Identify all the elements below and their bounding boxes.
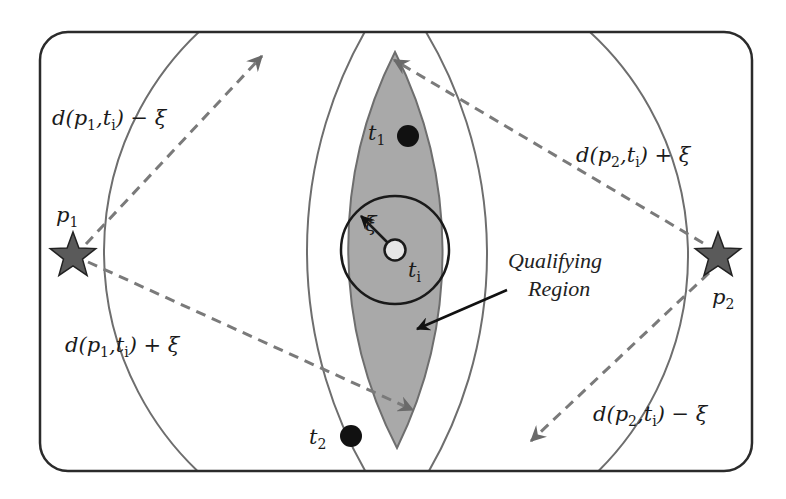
p1-star-icon bbox=[50, 232, 96, 275]
p2-star-icon bbox=[695, 232, 741, 275]
t1-point bbox=[397, 125, 419, 147]
label-p1-minus: d(p1,ti) − ξ bbox=[52, 106, 168, 133]
diagram-svg: ξ ti t1 t2 p1 p2 d(p1,ti) − ξ d(p1,ti) +… bbox=[0, 0, 786, 499]
label-p1-plus: d(p1,ti) + ξ bbox=[65, 333, 181, 360]
p1-label: p1 bbox=[56, 203, 78, 230]
arrow-p1-minus bbox=[86, 56, 262, 244]
xi-label: ξ bbox=[365, 212, 378, 236]
diagram-canvas: ξ ti t1 t2 p1 p2 d(p1,ti) − ξ d(p1,ti) +… bbox=[0, 0, 786, 499]
label-p2-plus: d(p2,ti) + ξ bbox=[576, 143, 692, 170]
t2-label: t2 bbox=[309, 425, 326, 452]
t2-point bbox=[340, 425, 362, 447]
arc-p1-inner bbox=[104, 10, 225, 492]
label-p2-minus: d(p2,ti) − ξ bbox=[593, 402, 709, 429]
annotation-line1: Qualifying bbox=[508, 248, 602, 273]
p2-label: p2 bbox=[712, 285, 734, 312]
ti-point bbox=[385, 240, 406, 261]
annotation-line2: Region bbox=[527, 276, 590, 301]
